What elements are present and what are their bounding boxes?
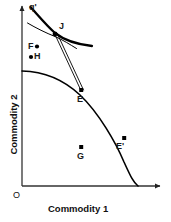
y-axis-label: Commodity 2 — [8, 85, 19, 165]
point-marker-G — [79, 145, 83, 149]
indifference-curve-lower — [28, 23, 77, 49]
axes-group — [22, 6, 160, 186]
ppf-diagram: q' J F H E E' G O Commodity 1 Commodity … — [0, 0, 171, 222]
markers-group — [29, 32, 126, 149]
x-axis-label: Commodity 1 — [48, 203, 108, 214]
point-label-G: G — [77, 152, 84, 161]
point-marker-J — [53, 32, 58, 37]
point-label-H: H — [34, 52, 41, 61]
price-line-left — [55, 34, 81, 90]
point-marker-E-prime — [122, 136, 126, 140]
ppf-chart-canvas — [0, 0, 171, 222]
point-label-E: E — [77, 95, 83, 104]
point-marker-H — [29, 55, 33, 59]
point-label-F: F — [28, 42, 34, 51]
point-label-J: J — [59, 22, 64, 31]
point-marker-E — [79, 88, 83, 92]
point-marker-F — [35, 44, 39, 48]
origin-label: O — [13, 190, 20, 200]
annotation-label-q: q' — [29, 3, 37, 12]
point-label-E-prime: E' — [116, 142, 124, 151]
